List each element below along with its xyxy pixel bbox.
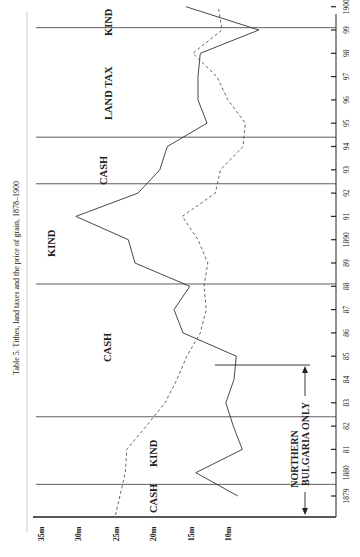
chart-title: Table 5. Tithes, land taxes and the pric… (12, 181, 21, 375)
year-tick-label: 97 (342, 73, 351, 81)
year-tick-label: 87 (342, 306, 351, 314)
year-tick-label: 89 (342, 259, 351, 267)
year-tick-label: 98 (342, 49, 351, 57)
label-land-tax: LAND TAX (103, 66, 114, 120)
period-dividers (36, 28, 336, 485)
year-tick-label: 86 (342, 329, 351, 337)
tithes-chart: Table 5. Tithes, land taxes and the pric… (0, 0, 360, 557)
value-tick-label: 20m (149, 526, 158, 541)
label-cash-1893: CASH (98, 156, 109, 185)
label-northern: NORTHERN (289, 430, 300, 488)
grain-price-line (116, 7, 246, 515)
year-tick-label: 85 (342, 352, 351, 360)
year-tick-label: 99 (342, 26, 351, 34)
label-cash-1879: CASH (148, 484, 159, 513)
year-tick-label: 82 (342, 422, 351, 430)
year-tick-label: 96 (342, 96, 351, 104)
year-tick-label: 95 (342, 119, 351, 127)
year-tick-label: 1880 (342, 465, 351, 480)
year-tick-label: 93 (342, 166, 351, 174)
value-tick-label: 15m (187, 526, 196, 541)
year-axis: 1879188081828384858687888918909192939495… (331, 0, 351, 517)
year-tick-label: 83 (342, 399, 351, 407)
label-cash-1883: CASH (102, 333, 113, 362)
arrow-down-icon (302, 508, 308, 515)
value-tick-label: 30m (74, 526, 83, 541)
label-kind-1900: KIND (103, 8, 114, 36)
year-tick-label: 1900 (342, 0, 351, 14)
year-tick-label: 91 (342, 212, 351, 220)
year-tick-label: 1879 (342, 488, 351, 503)
label-bulgaria-only: BULGARIA ONLY (300, 401, 311, 486)
label-kind-1880: KIND (148, 439, 159, 467)
value-axis: 35m30m25m20m15m10m (33, 517, 336, 541)
arrow-up-icon (302, 366, 308, 373)
year-tick-label: 81 (342, 445, 351, 453)
year-tick-label: 1890 (342, 232, 351, 247)
label-kind-1890: KIND (46, 229, 57, 257)
value-tick-label: 25m (112, 526, 121, 541)
year-tick-label: 88 (342, 282, 351, 290)
year-tick-label: 92 (342, 189, 351, 197)
year-tick-label: 94 (342, 143, 351, 151)
value-tick-label: 10m (224, 526, 233, 541)
value-tick-label: 35m (37, 526, 46, 541)
year-tick-label: 84 (342, 376, 351, 384)
